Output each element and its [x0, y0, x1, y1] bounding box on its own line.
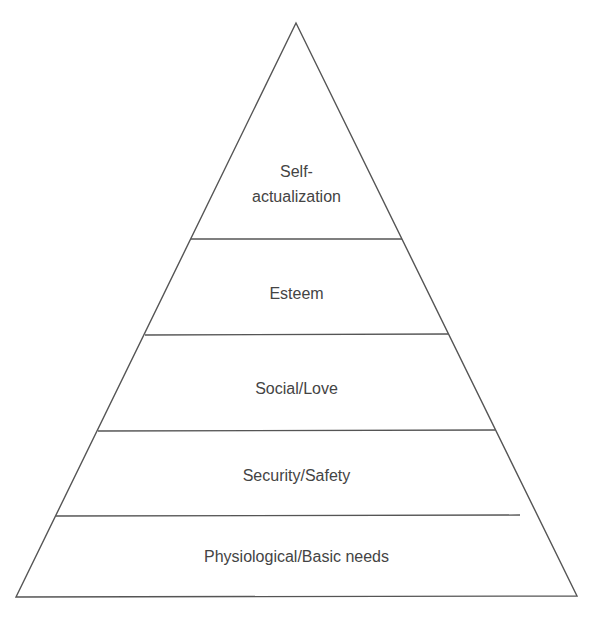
- level-social-love: Social/Love: [0, 376, 593, 401]
- level-self-actualization-line1: Self-: [0, 159, 593, 184]
- level-security-safety: Security/Safety: [0, 463, 593, 488]
- level-self-actualization-line2: actualization: [0, 184, 593, 209]
- level-esteem: Esteem: [0, 281, 593, 306]
- pyramid-triangle: [16, 23, 577, 597]
- divider-social-security: [98, 430, 495, 431]
- level-self-actualization: Self- actualization: [0, 159, 593, 209]
- pyramid-outline: [0, 0, 593, 621]
- level-physiological: Physiological/Basic needs: [0, 544, 593, 569]
- divider-esteem-social: [145, 334, 448, 335]
- divider-security-physiological: [56, 515, 520, 516]
